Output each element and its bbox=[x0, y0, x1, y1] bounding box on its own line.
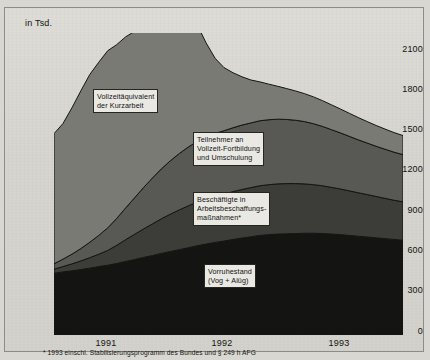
annotation-vorruhestand: Vorruhestand (Vog + Alüg) bbox=[204, 264, 256, 288]
y-axis bbox=[5, 8, 51, 360]
annotation-fortbildung: Teilnehmer an Vollzeit-Fortbildung und U… bbox=[193, 132, 264, 166]
chart-frame: in Tsd. Vollzeitäquivalent der Kurzarbei… bbox=[4, 7, 424, 352]
plot-area bbox=[54, 33, 403, 335]
stacked-area-svg bbox=[54, 33, 403, 335]
y-axis-tick: 1800 bbox=[377, 84, 423, 94]
annotation-abm: Beschäftigte in Arbeitsbeschaffungs- maß… bbox=[193, 192, 270, 226]
x-axis-tick: 1992 bbox=[212, 338, 233, 348]
y-axis-tick: 2100 bbox=[377, 44, 423, 54]
y-axis-tick: 600 bbox=[377, 245, 423, 255]
y-axis-tick: 300 bbox=[377, 285, 423, 295]
y-axis-tick: 1200 bbox=[377, 164, 423, 174]
x-axis-tick: 1991 bbox=[96, 338, 117, 348]
annotation-kurzarbeit: Vollzeitäquivalent der Kurzarbeit bbox=[93, 89, 158, 113]
y-axis-tick: 1500 bbox=[377, 124, 423, 134]
x-axis-tick: 1993 bbox=[329, 338, 350, 348]
chart-footnote: * 1993 einschl. Stabilisierungsprogramm … bbox=[43, 349, 256, 356]
y-axis-tick: 0 bbox=[377, 326, 423, 336]
y-axis-tick: 900 bbox=[377, 205, 423, 215]
